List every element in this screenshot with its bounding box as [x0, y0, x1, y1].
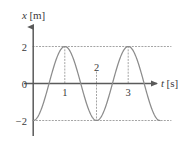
- y-axis-label-unit: [m]: [29, 9, 45, 21]
- plot-canvas: 2 0 −2 1 2 3 x[m] t[s]: [0, 0, 190, 150]
- ytick-label-2: 2: [22, 42, 27, 53]
- oscillation-chart-figure: 2 0 −2 1 2 3 x[m] t[s]: [0, 0, 190, 150]
- x-axis-label-unit: [s]: [167, 77, 179, 89]
- xtick-label-3: 3: [126, 87, 131, 98]
- xtick-label-2: 2: [94, 62, 99, 73]
- ytick-label-0: 0: [22, 79, 27, 90]
- y-axis-label: x[m]: [21, 9, 45, 21]
- x-axis-label-variable: t: [161, 77, 165, 89]
- xtick-label-1: 1: [62, 87, 67, 98]
- y-axis-label-variable: x: [21, 9, 27, 21]
- ytick-label-minus2: −2: [16, 116, 27, 127]
- x-axis-label: t[s]: [161, 77, 178, 89]
